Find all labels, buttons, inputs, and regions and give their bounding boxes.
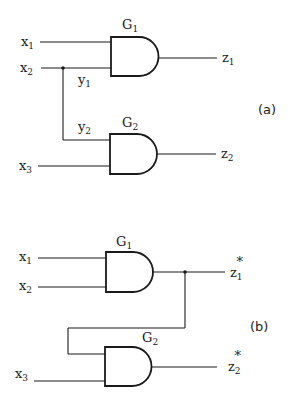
input-label-x1-a: x1 xyxy=(21,34,34,51)
junction-dot-a xyxy=(61,66,65,70)
diagram-a: G1 G2 x1 x2 x3 y1 y2 z1 z2 (a) xyxy=(19,17,276,175)
gate-label-g2-b: G2 xyxy=(142,330,158,347)
gate-label-g1-b: G1 xyxy=(116,234,132,251)
and-gate-g2-b xyxy=(105,347,152,386)
output-label-z2-star: z2* xyxy=(228,348,242,376)
branch-label-y1: y1 xyxy=(77,72,91,89)
input-label-x1-b: x1 xyxy=(19,249,32,266)
figure-tag-b: (b) xyxy=(250,319,268,334)
gate-label-g1-a: G1 xyxy=(122,17,138,34)
and-gate-g1-a xyxy=(111,37,159,76)
input-label-x3-b: x3 xyxy=(15,366,28,383)
input-label-x3-a: x3 xyxy=(19,158,32,175)
input-label-x2-b: x2 xyxy=(19,278,32,295)
input-label-x2-a: x2 xyxy=(20,60,33,77)
output-label-z1-star: z1* xyxy=(230,254,244,282)
branch-label-y2: y2 xyxy=(77,119,91,136)
junction-dot-b xyxy=(183,270,187,274)
figure-tag-a: (a) xyxy=(258,102,276,117)
output-label-z2-a: z2 xyxy=(221,146,234,163)
and-gate-g1-b xyxy=(106,252,153,292)
output-label-z1-a: z1 xyxy=(222,50,235,67)
gate-label-g2-a: G2 xyxy=(122,115,138,132)
logic-diagram: G1 G2 x1 x2 x3 y1 y2 z1 z2 (a) G1 G2 x1 … xyxy=(0,0,289,410)
diagram-b: G1 G2 x1 x2 x3 z1* z2* (b) xyxy=(15,234,268,386)
and-gate-g2-a xyxy=(110,134,157,174)
